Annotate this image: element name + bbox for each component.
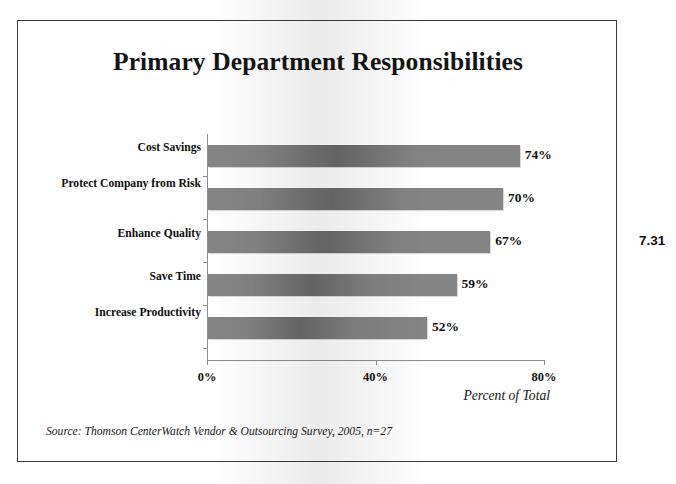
bar-value-label: 52%	[432, 319, 459, 335]
bar	[208, 317, 427, 339]
category-label: Increase Productivity	[31, 305, 201, 320]
bar-row: Save Time59%	[207, 263, 544, 306]
figure-frame: Primary Department Responsibilities Cost…	[17, 20, 617, 462]
bar	[208, 231, 490, 253]
scanned-page: Primary Department Responsibilities Cost…	[0, 0, 676, 484]
bar-value-label: 67%	[495, 233, 522, 249]
bar-value-label: 74%	[525, 147, 552, 163]
bar-value-label: 59%	[462, 276, 489, 292]
bar	[208, 145, 520, 167]
bar	[208, 188, 503, 210]
x-axis-tick	[544, 360, 545, 365]
category-label: Save Time	[31, 269, 201, 284]
bar-row: Protect Company from Risk70%	[207, 177, 544, 220]
figure-number: 7.31	[639, 233, 665, 248]
x-axis-tick-label: 80%	[532, 370, 557, 385]
bar-value-label: 70%	[508, 190, 535, 206]
source-note: Source: Thomson CenterWatch Vendor & Out…	[46, 425, 392, 438]
bar	[208, 274, 457, 296]
x-axis-tick	[207, 360, 208, 365]
y-axis-tick	[203, 348, 208, 349]
category-label: Enhance Quality	[31, 226, 201, 241]
category-label: Cost Savings	[31, 140, 201, 155]
chart-plot-area: Cost Savings74%Protect Company from Risk…	[207, 134, 544, 360]
x-axis-tick-label: 0%	[198, 370, 217, 385]
x-axis-tick-label: 40%	[363, 370, 388, 385]
page-title: Primary Department Responsibilities	[18, 47, 618, 77]
bar-row: Increase Productivity52%	[207, 306, 544, 349]
x-axis-tick	[376, 360, 377, 365]
x-axis-title: Percent of Total	[463, 388, 550, 404]
bar-row: Enhance Quality67%	[207, 220, 544, 263]
category-label: Protect Company from Risk	[31, 176, 201, 191]
bar-row: Cost Savings74%	[207, 134, 544, 177]
